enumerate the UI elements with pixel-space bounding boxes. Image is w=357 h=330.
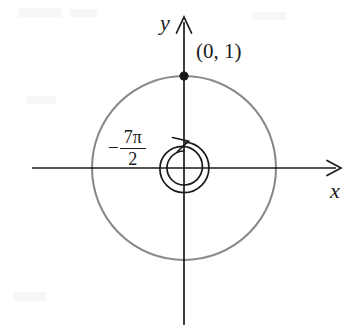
unit-circle-figure: y x (0, 1) − 7π 2 (0, 0, 357, 330)
y-axis-label: y (160, 12, 170, 34)
diagram-canvas (0, 0, 357, 330)
scan-artifacts (14, 8, 286, 301)
angle-label: − 7π 2 (108, 128, 146, 169)
angle-minus-sign: − (108, 138, 120, 157)
angle-denominator: 2 (126, 149, 139, 169)
x-axis (32, 161, 341, 176)
angle-fraction: 7π 2 (120, 128, 146, 169)
point-label: (0, 1) (196, 41, 242, 62)
angle-numerator: 7π (122, 128, 144, 148)
point-marker (179, 71, 188, 80)
spiral-arrowhead (173, 138, 189, 152)
y-axis (177, 17, 192, 325)
x-axis-label: x (330, 180, 340, 202)
